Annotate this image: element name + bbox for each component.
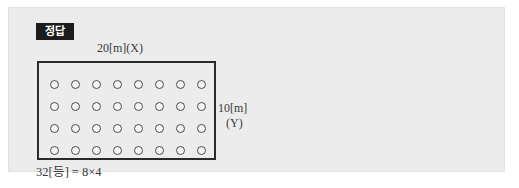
lamp-icon <box>92 124 101 133</box>
lamp-icon <box>197 146 206 155</box>
lamp-icon <box>176 80 185 89</box>
lamp-icon <box>134 124 143 133</box>
lamp-icon <box>155 124 164 133</box>
lamp-icon <box>71 80 80 89</box>
formula-quantity: 32[등] <box>36 165 69 179</box>
lamp-icon <box>176 124 185 133</box>
lamp-icon <box>155 146 164 155</box>
answer-badge: 정답 <box>36 23 74 40</box>
answer-figure: 정답 20[m](X) <box>0 0 519 188</box>
lamp-icon <box>92 102 101 111</box>
lamp-icon <box>50 102 59 111</box>
lamp-icon <box>71 102 80 111</box>
lamp-icon <box>155 102 164 111</box>
lamp-icon <box>92 146 101 155</box>
lamp-icon <box>134 146 143 155</box>
formula-line: 32[등]=8×4 <box>36 161 101 180</box>
lamp-icon <box>71 146 80 155</box>
lamp-icon <box>113 80 122 89</box>
lamp-icon <box>50 146 59 155</box>
room-rectangle <box>37 61 216 160</box>
lamp-icon <box>113 124 122 133</box>
lamp-icon <box>176 146 185 155</box>
lamp-icon <box>71 124 80 133</box>
formula-equals: = <box>69 165 82 179</box>
lamp-grid <box>50 74 218 162</box>
y-dimension-value: 10[m] <box>218 101 247 115</box>
lamp-icon <box>197 124 206 133</box>
lamp-icon <box>197 80 206 89</box>
figure-panel: 정답 20[m](X) <box>8 7 505 172</box>
lamp-icon <box>176 102 185 111</box>
x-dimension-label: 20[m](X) <box>97 41 143 56</box>
lamp-icon <box>113 146 122 155</box>
lamp-icon <box>155 80 164 89</box>
formula-right-factor: 4 <box>95 165 101 179</box>
lamp-icon <box>134 80 143 89</box>
lamp-icon <box>197 102 206 111</box>
lamp-icon <box>92 80 101 89</box>
y-dimension-label: 10[m] (Y) <box>218 101 247 131</box>
y-axis-name: (Y) <box>218 116 247 131</box>
lamp-icon <box>50 80 59 89</box>
lamp-icon <box>134 102 143 111</box>
lamp-icon <box>50 124 59 133</box>
lamp-icon <box>113 102 122 111</box>
